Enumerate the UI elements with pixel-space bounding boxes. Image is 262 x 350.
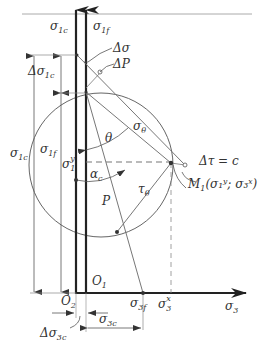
label-delta-sigma3c: Δσ3c [39,326,67,342]
label-theta: θ [105,131,113,145]
label-O1: O1 [92,274,107,290]
label-sigma3c: σ3c [99,312,117,328]
label-M1: M1(σ₁ʸ; σ₃ˣ) [187,177,257,193]
label-alpha-c: αc [90,167,103,183]
point-circle-bottom [115,230,119,234]
label-sigma-theta: σθ [133,119,146,135]
label-sigma1f-dim: σ1f [40,142,58,158]
leader-M1 [173,165,186,188]
point-1f [85,91,88,94]
label-sigma3f: σ3f [130,296,148,312]
label-O2: O2 [61,294,76,310]
point-delta-sigma [85,61,88,64]
mohr-circle [29,93,173,237]
label-delta-sigma1c: Δσ1c [27,64,55,80]
label-delta-p: ΔP [112,57,131,71]
mohr-diagram: σ1c σ1f Δσ ΔP Δσ1c σ1c σ1f σ1y θ σθ αc τ… [0,0,262,350]
leader-delta-p [100,64,114,72]
leader-delta-sigma [88,48,112,62]
label-delta-sigma: Δσ [112,41,131,55]
label-sigma1f-axis: σ1f [93,19,111,35]
sigma-theta-line [86,92,171,163]
label-P: P [101,194,111,208]
label-delta-tau-c: Δτ = c [198,154,239,168]
label-sigma1c-axis: σ1c [50,19,68,35]
point-sigma3f [141,291,145,295]
leader-delta-sigma3c [70,316,80,328]
label-sigma3-x: σ3x [158,294,171,313]
delta-p-line [86,73,100,88]
label-sigma3-axis: σ3 [225,299,238,315]
point-delta-tau [183,163,187,167]
label-sigma1c-dim: σ1c [10,146,28,162]
point-M1 [169,161,173,165]
point-sigma1-y [74,178,78,182]
label-tau-theta: τθ [138,182,150,198]
point-sigma1c-top [76,54,79,57]
label-sigma1-y: σ1y [62,154,75,173]
